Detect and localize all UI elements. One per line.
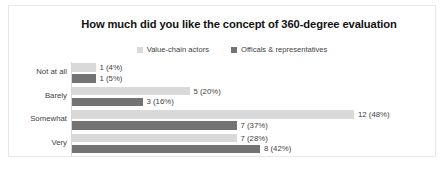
bar-value-label: 3 (16%): [147, 97, 174, 106]
bar-group: 1 (4%): [72, 63, 122, 72]
legend-item-value-chain-actors[interactable]: Value-chain actors: [137, 45, 209, 54]
bar-group: 8 (42%): [72, 145, 291, 154]
chart-legend: Value-chain actors Officals & representa…: [9, 45, 446, 54]
bar-value-label: 7 (28%): [241, 134, 268, 143]
category-label: Not at all: [9, 67, 67, 76]
legend-swatch-icon: [231, 47, 237, 53]
bar[interactable]: [72, 145, 260, 154]
bar-value-label: 1 (5%): [100, 74, 123, 83]
bar[interactable]: [72, 121, 237, 130]
category-label: Very: [9, 138, 67, 147]
bar-group: 7 (28%): [72, 134, 268, 143]
bar[interactable]: [72, 110, 354, 119]
bar-value-label: 5 (20%): [194, 87, 221, 96]
bar[interactable]: [72, 98, 143, 107]
chart-container: How much did you like the concept of 360…: [8, 5, 436, 157]
legend-item-officals-representatives[interactable]: Officals & representatives: [231, 45, 327, 54]
bar[interactable]: [72, 63, 96, 72]
bar[interactable]: [72, 87, 190, 96]
bar-group: 3 (16%): [72, 98, 174, 107]
bar-group: 7 (37%): [72, 121, 268, 130]
chart-row: Not at all1 (4%)1 (5%): [9, 62, 446, 86]
chart-row: Barely5 (20%)3 (16%): [9, 86, 446, 110]
plot-area: Not at all1 (4%)1 (5%)Barely5 (20%)3 (16…: [9, 62, 446, 156]
bar-value-label: 12 (48%): [358, 110, 390, 119]
bar-group: 5 (20%): [72, 87, 221, 96]
chart-title: How much did you like the concept of 360…: [47, 18, 431, 30]
chart-row: Very7 (28%)8 (42%): [9, 133, 446, 157]
bar[interactable]: [72, 74, 96, 83]
bar[interactable]: [72, 134, 237, 143]
legend-swatch-icon: [137, 47, 143, 53]
bar-value-label: 8 (42%): [264, 144, 291, 153]
bar-group: 12 (48%): [72, 110, 390, 119]
bar-group: 1 (5%): [72, 74, 122, 83]
legend-label: Officals & representatives: [241, 45, 327, 54]
category-label: Barely: [9, 91, 67, 100]
chart-row: Somewhat12 (48%)7 (37%): [9, 109, 446, 133]
bar-value-label: 7 (37%): [241, 121, 268, 130]
category-label: Somewhat: [9, 114, 67, 123]
bar-value-label: 1 (4%): [100, 63, 123, 72]
legend-label: Value-chain actors: [147, 45, 209, 54]
